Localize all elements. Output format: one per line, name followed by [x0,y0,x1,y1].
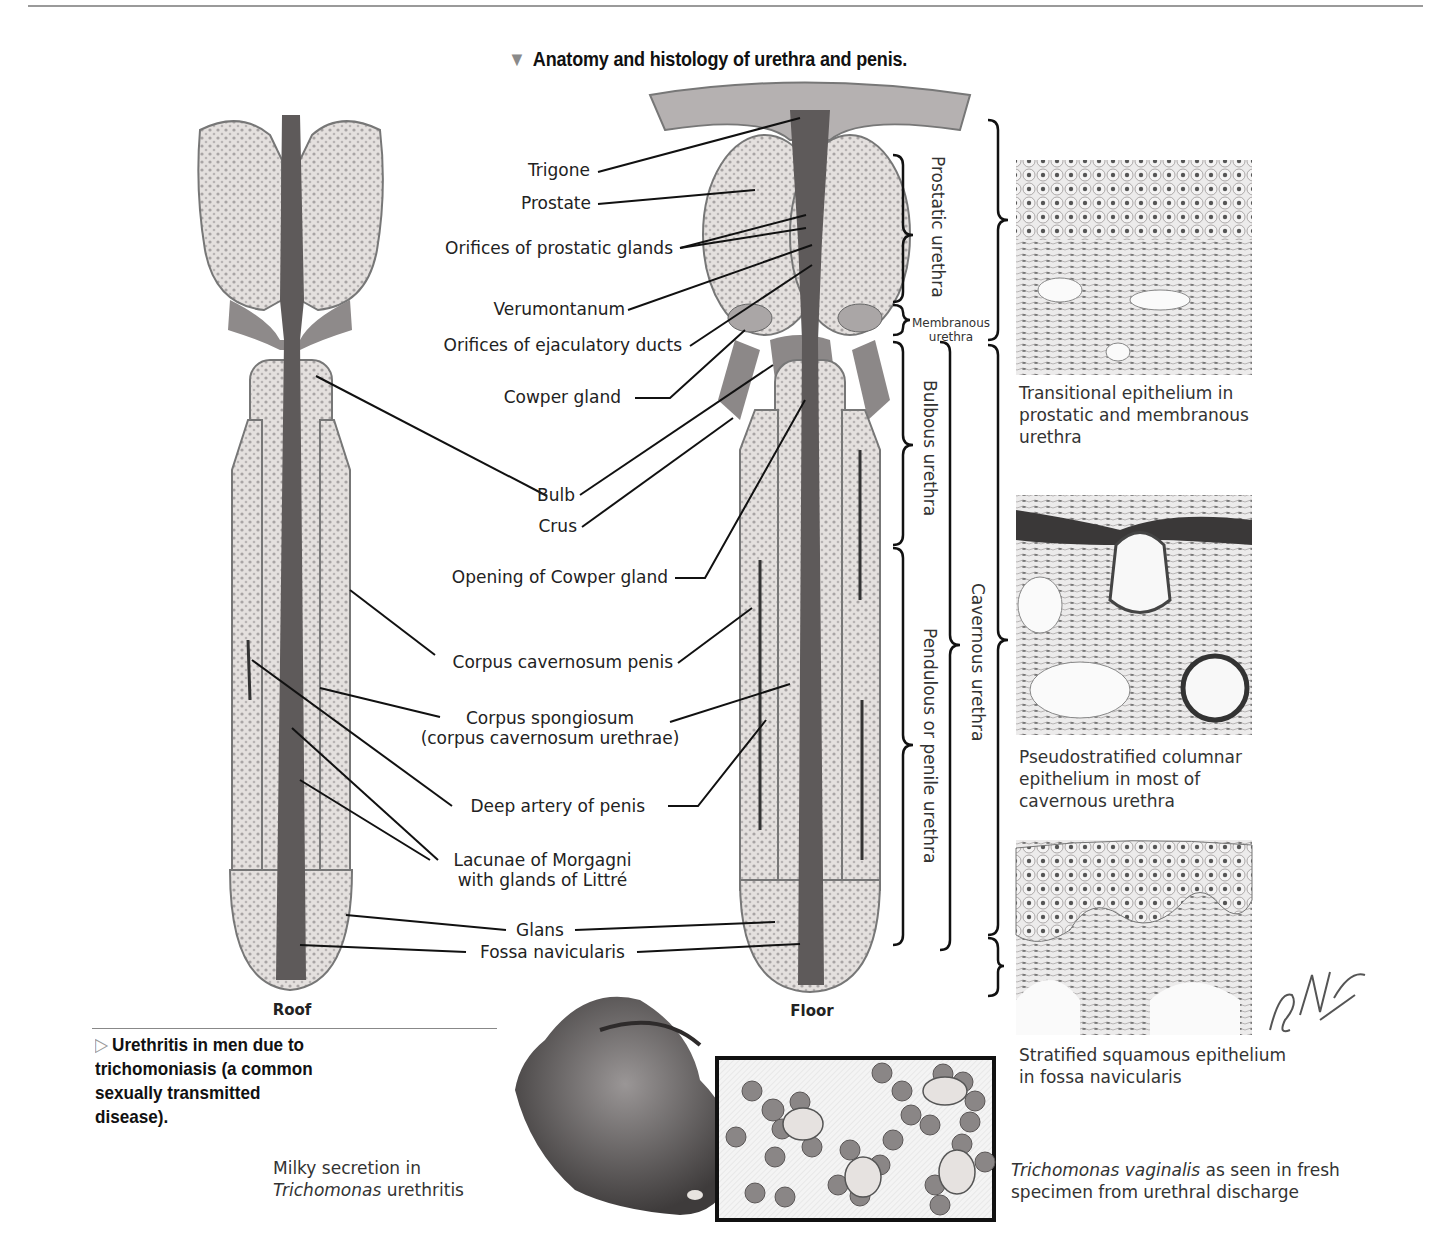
caption-pseudostratified-epithelium: Pseudostratified columnar epithelium in … [1019,746,1279,812]
subsection-triangle-icon: ▷ [95,1034,109,1055]
label-orifices-ejaculatory-ducts: Orifices of ejaculatory ducts [400,335,682,355]
trichomonas-microscope-panel [717,1058,995,1220]
caption-line: Trichomonas urethritis [273,1179,513,1201]
caption-line: in fossa navicularis [1019,1066,1319,1088]
label-roof-view: Roof [262,1000,322,1020]
label-lacunae-line2: with glands of Littré [440,870,645,890]
caption-italic: Trichomonas vaginalis [1011,1160,1200,1180]
region-cavernous-urethra: Cavernous urethra [968,583,988,741]
label-orifices-prostatic-glands: Orifices of prostatic glands [400,238,673,258]
caption-line: Stratified squamous epithelium [1019,1044,1319,1066]
label-corpus-cavernosum-penis: Corpus cavernosum penis [430,652,673,672]
caption-line: Trichomonas vaginalis as seen in fresh [1011,1159,1441,1181]
histology-pseudostratified-panel [1016,495,1252,735]
label-floor-view: Floor [782,1001,842,1021]
label-lacunae-line1: Lacunae of Morgagni [440,850,645,870]
subsection-heading: ▷Urethritis in men due to trichomoniasis… [95,1033,329,1129]
region-pendulous-urethra: Pendulous or penile urethra [920,628,940,863]
caption-text: as seen in fresh [1200,1160,1340,1180]
caption-trichomonas-vaginalis: Trichomonas vaginalis as seen in fresh s… [1011,1159,1441,1203]
label-deep-artery: Deep artery of penis [440,796,645,816]
label-lacunae-morgagni: Lacunae of Morgagni with glands of Littr… [440,850,645,890]
caption-italic: Trichomonas [273,1180,381,1200]
label-corpus-spongiosum-line1: Corpus spongiosum [420,708,680,728]
region-membranous-line2: urethra [905,330,997,344]
caption-line: Transitional epithelium in [1019,382,1279,404]
label-glans: Glans [505,920,575,940]
caption-line: Milky secretion in [273,1157,513,1179]
caption-line: prostatic and membranous [1019,404,1279,426]
caption-stratified-squamous-epithelium: Stratified squamous epithelium in fossa … [1019,1044,1319,1088]
label-bulb: Bulb [520,485,575,505]
label-corpus-spongiosum-line2: (corpus cavernosum urethrae) [420,728,680,748]
subsection-heading-text: Urethritis in men due to trichomoniasis … [95,1034,313,1127]
label-corpus-spongiosum: Corpus spongiosum (corpus cavernosum ure… [420,708,680,748]
milky-secretion-illustration [515,997,736,1215]
histology-squamous-panel [1016,840,1252,1035]
caption-milky-secretion: Milky secretion in Trichomonas urethriti… [273,1157,513,1201]
caption-line: urethra [1019,426,1279,448]
label-prostate: Prostate [480,193,591,213]
roof-view-drawing [198,115,383,990]
region-prostatic-urethra: Prostatic urethra [928,156,948,298]
subsection-rule [92,1028,497,1029]
label-fossa-navicularis: Fossa navicularis [470,942,635,962]
histology-transitional-panel [1016,160,1252,375]
label-crus: Crus [520,516,577,536]
region-bulbous-urethra: Bulbous urethra [920,380,940,516]
caption-text: urethritis [381,1180,464,1200]
netter-signature [1270,972,1365,1031]
label-trigone: Trigone [480,160,590,180]
label-cowper-gland: Cowper gland [480,387,621,407]
region-membranous-urethra: Membranous urethra [905,316,997,344]
caption-line: specimen from urethral discharge [1011,1181,1441,1203]
caption-line: epithelium in most of [1019,768,1279,790]
caption-line: cavernous urethra [1019,790,1279,812]
label-opening-cowper-gland: Opening of Cowper gland [420,567,668,587]
caption-line: Pseudostratified columnar [1019,746,1279,768]
caption-transitional-epithelium: Transitional epithelium in prostatic and… [1019,382,1279,448]
region-membranous-line1: Membranous [905,316,997,330]
label-verumontanum: Verumontanum [440,299,625,319]
